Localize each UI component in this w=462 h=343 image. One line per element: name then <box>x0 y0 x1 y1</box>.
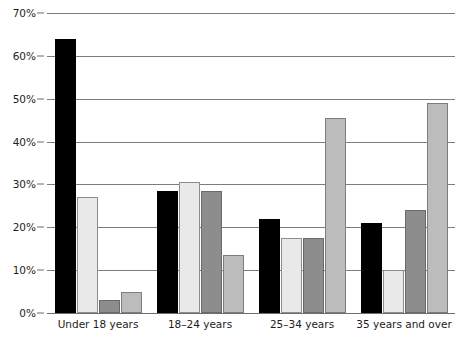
bar <box>281 238 302 313</box>
gridline-0 <box>47 313 455 314</box>
y-tick-mark <box>37 313 44 314</box>
y-tick-mark <box>37 13 44 14</box>
x-axis: Under 18 years18–24 years25–34 years35 y… <box>47 318 455 340</box>
bar <box>99 300 120 313</box>
bar <box>259 219 280 313</box>
bar <box>383 270 404 313</box>
bar-group <box>149 13 251 313</box>
y-tick-label: 40% <box>13 136 36 148</box>
x-tick-label: 18–24 years <box>168 318 232 330</box>
y-tick-mark <box>37 184 44 185</box>
y-tick-label: 70% <box>13 7 36 19</box>
y-tick-label: 60% <box>13 50 36 62</box>
bar <box>427 103 448 313</box>
bar <box>121 292 142 313</box>
x-tick-label: 35 years and over <box>356 318 451 330</box>
y-tick-mark <box>37 227 44 228</box>
bar <box>325 118 346 313</box>
bar-chart: 0%10%20%30%40%50%60%70% Under 18 years18… <box>0 0 462 343</box>
bar <box>405 210 426 313</box>
y-tick-label: 30% <box>13 178 36 190</box>
bar <box>223 255 244 313</box>
y-axis: 0%10%20%30%40%50%60%70% <box>0 13 44 313</box>
y-tick-mark <box>37 141 44 142</box>
plot-area <box>47 13 455 313</box>
bar <box>77 197 98 313</box>
bar-group <box>251 13 353 313</box>
bar <box>157 191 178 313</box>
bar <box>303 238 324 313</box>
y-tick-label: 20% <box>13 221 36 233</box>
x-tick-label: Under 18 years <box>58 318 139 330</box>
bar <box>361 223 382 313</box>
y-tick-mark <box>37 55 44 56</box>
bar <box>179 182 200 313</box>
bar <box>55 39 76 313</box>
y-tick-label: 0% <box>19 307 36 319</box>
y-tick-label: 10% <box>13 264 36 276</box>
bar-group <box>353 13 455 313</box>
y-tick-label: 50% <box>13 93 36 105</box>
bar <box>201 191 222 313</box>
y-tick-mark <box>37 270 44 271</box>
bar-group <box>47 13 149 313</box>
x-tick-label: 25–34 years <box>270 318 334 330</box>
y-tick-mark <box>37 98 44 99</box>
